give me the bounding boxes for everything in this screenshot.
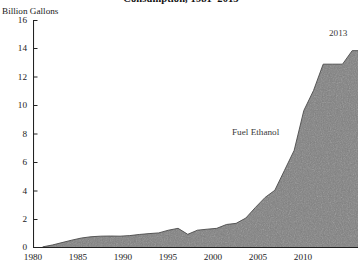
- y-tick-16: 16: [3, 16, 27, 25]
- y-axis-label: Billion Gallons: [2, 6, 58, 16]
- x-tick-1985: 1985: [60, 253, 96, 262]
- chart-title: Consumption, 1981–2013: [0, 0, 362, 4]
- y-tick-6: 6: [3, 158, 27, 167]
- y-tick-10: 10: [3, 101, 27, 110]
- y-tick-8: 8: [3, 130, 27, 139]
- x-tick-2010: 2010: [285, 253, 321, 262]
- x-tick-2005: 2005: [240, 253, 276, 262]
- endpoint-year-label: 2013: [329, 28, 347, 38]
- y-tick-0: 0: [3, 243, 27, 252]
- x-tick-1990: 1990: [105, 253, 141, 262]
- plot-area: [33, 20, 358, 248]
- area-chart-svg: [33, 20, 358, 248]
- series-inline-label: Fuel Ethanol: [232, 127, 279, 137]
- y-tick-2: 2: [3, 215, 27, 224]
- y-tick-4: 4: [3, 187, 27, 196]
- y-tick-12: 12: [3, 73, 27, 82]
- x-tick-1980: 1980: [15, 253, 51, 262]
- y-axis-ticks: [34, 21, 38, 220]
- x-tick-2000: 2000: [195, 253, 231, 262]
- y-tick-14: 14: [3, 44, 27, 53]
- x-tick-1995: 1995: [150, 253, 186, 262]
- fuel-ethanol-area: [43, 51, 358, 248]
- chart-figure: Consumption, 1981–2013 Billion Gallons 1…: [0, 0, 362, 269]
